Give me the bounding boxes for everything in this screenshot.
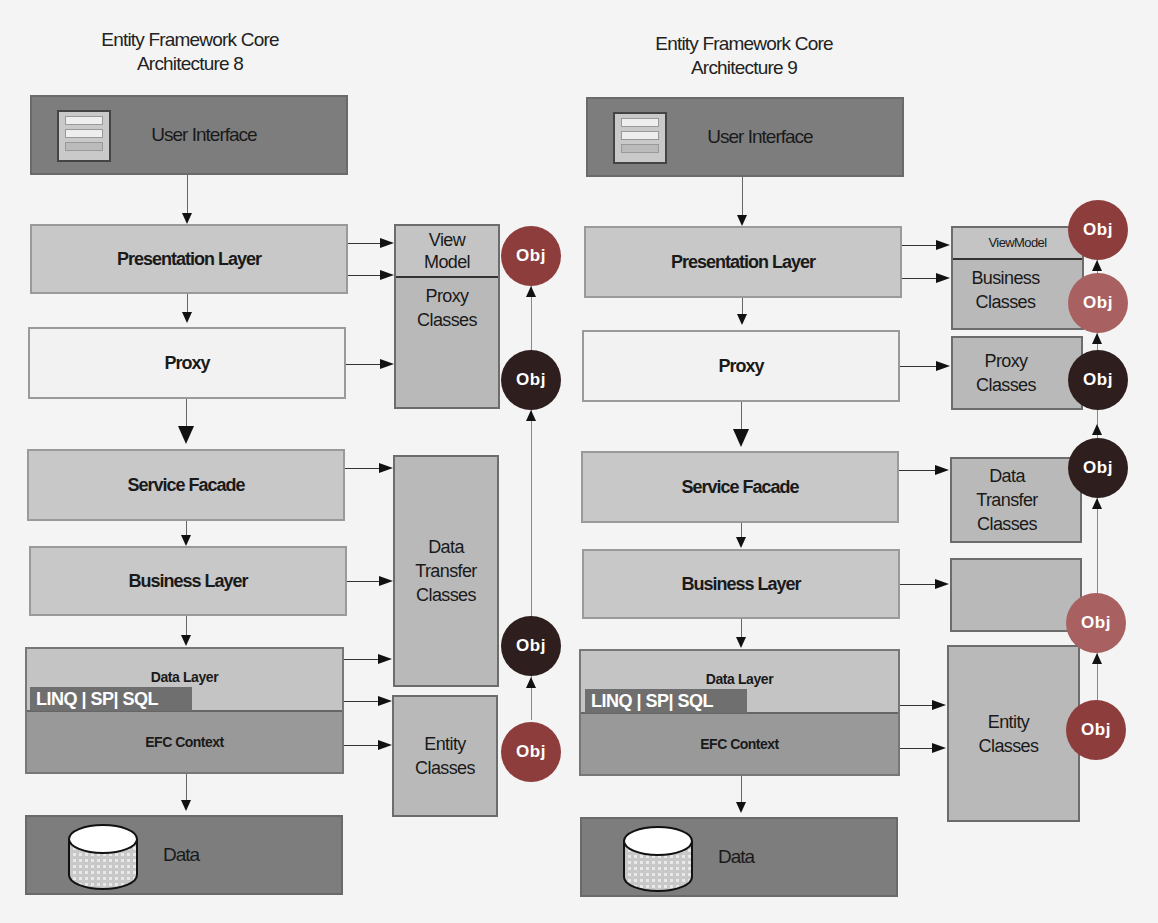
arrow-down-icon — [182, 213, 192, 224]
data-layer-label: Data Layer — [27, 669, 342, 685]
arrow-up-icon — [1092, 653, 1102, 664]
obj-circle-dto: Obj — [501, 616, 561, 676]
obj-circle-dto: Obj — [1068, 438, 1128, 498]
presentation-layer: Presentation Layer — [30, 224, 348, 294]
obj-label: Obj — [516, 636, 546, 656]
arrow-right-icon — [380, 270, 394, 280]
obj-label: Obj — [1083, 220, 1113, 240]
arrow-up-icon — [1092, 333, 1102, 344]
proxy-layer: Proxy — [28, 327, 346, 399]
arrow-up-icon — [526, 677, 536, 688]
title-line-2: Architecture 9 — [614, 56, 874, 80]
arrow-right-icon — [378, 654, 392, 664]
diagram-title: Entity Framework Core Architecture 8 — [60, 28, 320, 76]
layer-label: User Interface — [151, 124, 256, 146]
service-facade-layer: Service Facade — [581, 451, 899, 523]
presentation-layer: Presentation Layer — [584, 226, 902, 298]
business-layer: Business Layer — [29, 546, 347, 616]
arrow-down-icon — [182, 312, 192, 323]
entity-label: Entity Classes — [979, 710, 1039, 758]
arrow-right-icon — [379, 463, 393, 473]
obj-label: Obj — [1083, 293, 1113, 313]
arrow-down-icon — [736, 637, 746, 648]
layer-label: Proxy — [718, 356, 763, 377]
arrow-up-icon — [526, 410, 536, 421]
arrow-down-icon — [733, 429, 749, 447]
arrow-right-icon — [936, 361, 950, 371]
layer-label: Data — [163, 844, 199, 866]
obj-circle-viewmodel: Obj — [1068, 200, 1128, 260]
layer-label: Service Facade — [127, 475, 244, 496]
data-store-layer: Data — [25, 815, 343, 895]
proxy-classes-panel: Proxy Classes — [951, 336, 1083, 410]
layer-label: User Interface — [707, 126, 812, 148]
arrow-right-icon — [378, 740, 392, 750]
title-line-1: Entity Framework Core — [60, 28, 320, 52]
arrow-down-icon — [737, 215, 747, 226]
arrow-down-icon — [181, 535, 191, 546]
proxy-classes-label: Proxy Classes — [396, 278, 498, 332]
efc-context: EFC Context — [581, 712, 898, 774]
diagram-title: Entity Framework Core Architecture 9 — [614, 32, 874, 80]
obj-circle-proxy: Obj — [1068, 350, 1128, 410]
title-line-1: Entity Framework Core — [614, 32, 874, 56]
proxy-classes-label: Proxy Classes — [976, 349, 1036, 397]
layer-label: Business Layer — [681, 574, 800, 595]
obj-circle-viewmodel: Obj — [501, 226, 561, 286]
obj-label: Obj — [516, 742, 546, 762]
data-layer-label: Data Layer — [581, 671, 898, 687]
form-window-icon — [613, 112, 667, 164]
arrow-down-icon — [736, 802, 746, 813]
arrow-right-icon — [379, 576, 393, 586]
database-icon — [622, 825, 694, 893]
arrow-up-icon — [1092, 424, 1102, 435]
arrow-down-icon — [737, 314, 747, 325]
obj-label: Obj — [1083, 370, 1113, 390]
arrow-right-icon — [935, 465, 949, 475]
data-layer: Data Layer EFC Context LINQ | SP| SQL — [579, 649, 900, 776]
viewmodel-business-panel: ViewModel Business Classes — [951, 226, 1084, 330]
proxy-layer: Proxy — [582, 330, 900, 402]
efc-context-label: EFC Context — [145, 734, 224, 750]
business-classes-panel — [950, 558, 1082, 632]
arrow-up-icon — [1092, 260, 1102, 271]
title-line-2: Architecture 8 — [60, 52, 320, 76]
database-icon — [67, 823, 139, 891]
layer-label: Business Layer — [128, 571, 247, 592]
business-layer: Business Layer — [582, 549, 900, 619]
efc-context-label: EFC Context — [700, 736, 779, 752]
arrow-down-icon — [736, 537, 746, 548]
arrow-right-icon — [378, 696, 392, 706]
linq-sp-sql-badge: LINQ | SP| SQL — [30, 687, 192, 711]
dto-label: Data Transfer Classes — [976, 464, 1038, 536]
arrow-right-icon — [936, 273, 950, 283]
layer-label: Proxy — [164, 353, 209, 374]
data-store-layer: Data — [580, 817, 898, 897]
arrow-down-icon — [181, 800, 191, 811]
obj-label: Obj — [516, 246, 546, 266]
view-model-panel: ViewModel — [953, 228, 1082, 260]
arrow-down-icon — [178, 426, 194, 444]
arrow-right-icon — [380, 238, 394, 248]
form-window-icon — [57, 110, 111, 162]
proxy-classes-panel: View Model Proxy Classes — [394, 224, 500, 409]
obj-circle-proxy: Obj — [501, 350, 561, 410]
service-facade-layer: Service Facade — [27, 449, 345, 521]
obj-circle-business: Obj — [1066, 593, 1126, 653]
obj-circle-entity: Obj — [1066, 700, 1126, 760]
layer-label: Service Facade — [681, 477, 798, 498]
data-layer: Data Layer EFC Context LINQ | SP| SQL — [25, 647, 344, 774]
linq-sp-sql-badge: LINQ | SP| SQL — [585, 689, 747, 713]
obj-circle-business-top: Obj — [1068, 273, 1128, 333]
arrow-up-icon — [1092, 498, 1102, 509]
arrow-right-icon — [936, 240, 950, 250]
business-classes-label: Business Classes — [953, 260, 1082, 314]
entity-label: Entity Classes — [415, 732, 475, 780]
dto-panel: Data Transfer Classes — [393, 455, 499, 687]
obj-label: Obj — [1081, 613, 1111, 633]
entity-classes-panel: Entity Classes — [947, 645, 1080, 822]
arrow-right-icon — [380, 359, 394, 369]
layer-label: Presentation Layer — [671, 252, 815, 273]
obj-label: Obj — [516, 370, 546, 390]
arrow-up-icon — [526, 286, 536, 297]
